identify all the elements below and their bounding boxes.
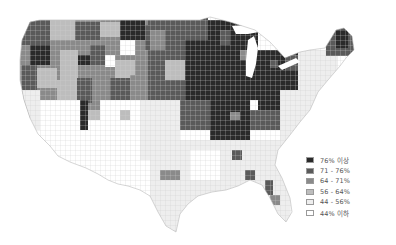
legend-swatch <box>306 210 314 216</box>
legend-item: 44 - 56% <box>306 197 350 208</box>
map-legend: 76% 이상 71 - 76% 64 - 71% 56 - 64% 44 - 5… <box>306 155 350 218</box>
legend-label: 44% 이하 <box>320 208 349 218</box>
legend-item: 76% 이상 <box>306 155 350 166</box>
legend-item: 71 - 76% <box>306 166 350 177</box>
legend-swatch <box>306 189 314 195</box>
legend-swatch <box>306 178 314 184</box>
legend-item: 44% 이하 <box>306 208 350 219</box>
legend-swatch <box>306 199 314 205</box>
legend-swatch <box>306 157 314 163</box>
legend-label: 71 - 76% <box>320 167 350 175</box>
legend-item: 64 - 71% <box>306 176 350 187</box>
legend-item: 56 - 64% <box>306 187 350 198</box>
legend-swatch <box>306 168 314 174</box>
legend-label: 64 - 71% <box>320 177 350 185</box>
legend-label: 44 - 56% <box>320 198 350 206</box>
legend-label: 56 - 64% <box>320 188 350 196</box>
legend-label: 76% 이상 <box>320 155 349 165</box>
